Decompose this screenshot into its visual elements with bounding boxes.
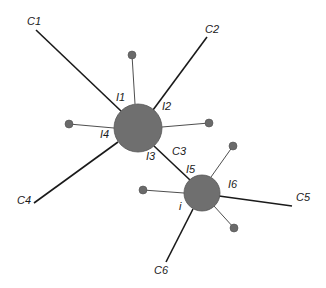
edge-c4 bbox=[34, 142, 118, 203]
hub-node-large bbox=[114, 104, 162, 152]
label-c2: C2 bbox=[205, 23, 219, 35]
edge-c6 bbox=[166, 209, 193, 262]
dot-node bbox=[65, 120, 73, 128]
hub-node-small bbox=[184, 175, 220, 211]
dot-node bbox=[229, 142, 237, 150]
label-i6: I6 bbox=[228, 178, 238, 190]
label-i4: I4 bbox=[100, 128, 109, 140]
spur-edge-top bbox=[132, 55, 135, 104]
edge-c5 bbox=[219, 196, 292, 206]
label-i: i bbox=[179, 200, 182, 212]
label-i2: I2 bbox=[162, 100, 171, 112]
spur-edge-right bbox=[162, 123, 209, 127]
label-c1: C1 bbox=[27, 15, 41, 27]
dot-node bbox=[139, 186, 147, 194]
label-c6: C6 bbox=[154, 264, 169, 276]
spur-edge-small-top bbox=[211, 146, 233, 177]
spur-edge-small-bottom bbox=[214, 206, 234, 228]
label-i5: I5 bbox=[186, 163, 196, 175]
label-i1: I1 bbox=[116, 91, 125, 103]
label-i3: I3 bbox=[146, 150, 156, 162]
network-diagram: C1 C2 C3 C4 C5 C6 I1 I2 I3 I4 I5 I6 i bbox=[0, 0, 326, 288]
edge-c1 bbox=[36, 30, 121, 111]
dot-node bbox=[230, 224, 238, 232]
label-c5: C5 bbox=[296, 191, 311, 203]
label-c4: C4 bbox=[17, 194, 31, 206]
spur-edge-small-left bbox=[143, 190, 184, 193]
dot-node bbox=[128, 51, 136, 59]
label-c3: C3 bbox=[172, 145, 187, 157]
dot-node bbox=[205, 119, 213, 127]
